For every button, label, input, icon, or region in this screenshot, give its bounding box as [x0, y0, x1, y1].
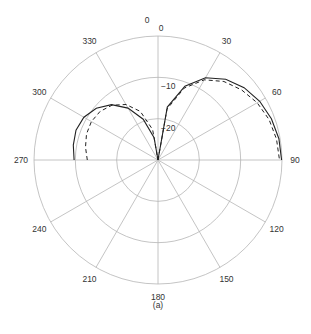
angle-label: 330 [82, 36, 96, 46]
radial-label: −10 [161, 81, 176, 91]
angle-label: 0 [159, 23, 164, 33]
angle-label: 300 [32, 87, 46, 97]
angle-label: 210 [82, 274, 96, 284]
angle-label: 120 [270, 224, 284, 234]
angle-label: 30 [222, 36, 232, 46]
angle-label: 150 [219, 274, 233, 284]
top-zero-label: 0 [145, 15, 150, 25]
figure-caption: (a) [153, 300, 164, 310]
angle-label: 270 [14, 155, 28, 165]
angle-label: 90 [290, 155, 300, 165]
radial-tick-labels: −10−20 [161, 81, 176, 132]
dashed-curve [86, 105, 159, 161]
polar-chart: 0306090120150180210240270300330 −10−20 0… [0, 0, 311, 334]
pattern-curves [73, 78, 281, 160]
angle-label: 240 [32, 224, 46, 234]
angle-label: 60 [272, 87, 282, 97]
solid-curve [158, 78, 282, 160]
